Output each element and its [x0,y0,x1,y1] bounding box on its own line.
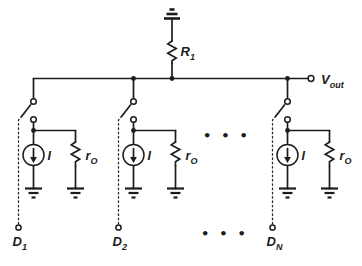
current-source-icon [277,145,298,166]
switch-icon [22,99,37,123]
dac-branch-n: I rO DN [267,79,352,252]
supply-rail-icon [164,10,180,19]
resistor-r1-icon [168,20,176,79]
dac-branch-1: I rO D1 [13,79,98,252]
input-terminal [270,225,275,230]
current-label: I [302,149,306,163]
input-label: D1 [13,234,27,252]
ellipsis-top: ••• [203,128,258,143]
output-resistance-icon [71,131,79,189]
switch-icon [122,99,137,123]
ground-icon [279,189,296,198]
current-source-icon [123,145,144,166]
switch-icon [276,99,291,123]
ground-icon [321,189,338,198]
circuit-diagram: R1 Vout [0,0,362,266]
dac-branch-2: I rO D2 [113,79,198,252]
vout-terminal [308,76,314,82]
output-resistance-icon [171,131,179,189]
bus-junction-dot [170,76,175,81]
ro-label: rO [340,149,352,166]
input-label: D2 [113,234,127,252]
digital-control-line [119,113,126,225]
resistor-r1-label-sub: 1 [190,52,195,62]
ground-icon [167,189,184,198]
digital-control-line [19,113,26,225]
digital-control-line [273,113,280,225]
ground-icon [25,189,42,198]
output-bus [34,76,314,82]
current-source-icon [23,145,44,166]
input-terminal [116,225,121,230]
vout-label-sub: out [330,80,345,90]
output-resistance-icon [325,131,333,189]
resistor-r1-label: R1 [181,44,195,62]
vout-label: Vout [321,72,345,90]
ro-label: rO [186,149,198,166]
ro-label: rO [86,149,98,166]
input-label: DN [267,234,283,252]
current-label: I [48,149,52,163]
ellipsis-bottom: ••• [201,226,256,241]
current-label: I [148,149,152,163]
ground-icon [67,189,84,198]
input-terminal [16,225,21,230]
ground-icon [125,189,142,198]
